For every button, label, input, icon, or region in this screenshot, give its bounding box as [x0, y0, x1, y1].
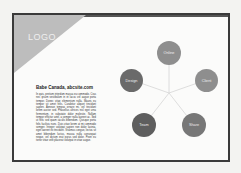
node-client[interactable]: Client — [195, 69, 218, 92]
pentagon-diagram: Online Client Share Team Design — [114, 25, 224, 155]
slide-frame: LOGO Babe Canada, abcsite.com In quis, p… — [12, 13, 230, 162]
node-share-label: Share — [189, 123, 199, 127]
logo-text: LOGO — [28, 32, 56, 42]
node-online[interactable]: Online — [157, 41, 181, 65]
node-team-label: Team — [139, 123, 148, 127]
site-title: Babe Canada, abcsite.com — [36, 85, 93, 90]
node-team[interactable]: Team — [132, 113, 156, 137]
node-design[interactable]: Design — [120, 69, 143, 92]
node-client-label: Client — [202, 79, 212, 83]
node-design-label: Design — [126, 79, 138, 83]
node-online-label: Online — [164, 51, 175, 55]
node-share[interactable]: Share — [182, 113, 206, 137]
logo-banner — [14, 15, 86, 73]
body-paragraph: In quis, pretium interdum massa eu commo… — [36, 93, 96, 142]
